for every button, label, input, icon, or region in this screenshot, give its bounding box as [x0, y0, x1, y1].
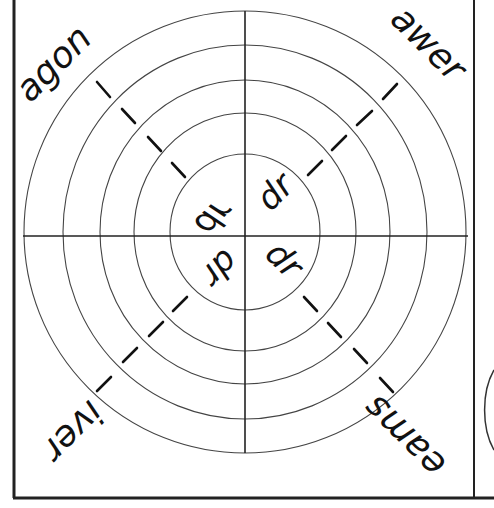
blank-tl-4[interactable] [172, 163, 185, 177]
center-blend-bottom-left: dr [192, 242, 247, 297]
blank-tl-1[interactable] [97, 82, 110, 97]
blank-bl-1[interactable] [173, 297, 187, 311]
center-blend-top-left: dr [187, 190, 242, 245]
answer-blanks [97, 82, 397, 392]
blank-tr-2[interactable] [357, 111, 372, 125]
word-wheel-graphic: dr dr dr dr agon awer eams iver [0, 0, 494, 508]
ending-top-right: awer [383, 0, 476, 90]
blank-bl-4[interactable] [97, 377, 111, 391]
next-wheel-arc [485, 370, 494, 450]
blank-br-2[interactable] [328, 323, 341, 337]
blank-br-1[interactable] [304, 297, 317, 311]
ending-bottom-right: eams [355, 388, 453, 486]
blank-bl-3[interactable] [123, 348, 137, 362]
blank-tr-4[interactable] [308, 161, 322, 175]
ending-bottom-left: iver [34, 393, 113, 472]
word-wheel-worksheet: dr dr dr dr agon awer eams iver [0, 0, 494, 508]
ending-top-left: agon [7, 17, 99, 109]
blank-tl-2[interactable] [122, 109, 135, 123]
blank-tr-3[interactable] [332, 136, 346, 150]
center-blend-top-right: dr [248, 163, 303, 218]
blank-bl-2[interactable] [149, 322, 163, 336]
blank-br-3[interactable] [354, 349, 367, 363]
blank-tr-1[interactable] [383, 84, 397, 99]
blank-tl-3[interactable] [148, 137, 161, 151]
